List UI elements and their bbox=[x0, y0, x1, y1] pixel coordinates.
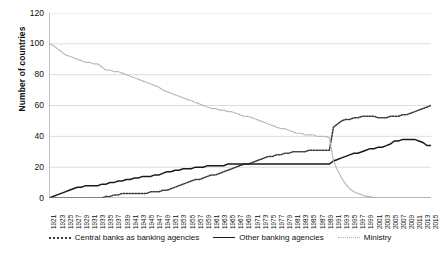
x-tick-label: 2005 bbox=[393, 215, 399, 229]
y-tick-label: 100 bbox=[18, 39, 44, 48]
x-tick-label: 1965 bbox=[230, 215, 236, 229]
x-tick-label: 1943 bbox=[141, 215, 147, 229]
x-tick-label: 1975 bbox=[271, 215, 277, 229]
x-tick-label: 2011 bbox=[417, 215, 423, 229]
x-tick-label: 1961 bbox=[214, 215, 220, 229]
x-tick-label: 1921 bbox=[51, 215, 57, 229]
x-axis-tick-labels: 1921192319251927192919311933193519371939… bbox=[49, 199, 431, 231]
x-tick-label: 1929 bbox=[84, 215, 90, 229]
gridlines bbox=[49, 13, 431, 167]
x-tick-label: 1989 bbox=[328, 215, 334, 229]
x-tick-label: 1985 bbox=[311, 215, 317, 229]
x-tick-label: 1971 bbox=[255, 215, 261, 229]
legend-item[interactable]: Ministry bbox=[338, 233, 392, 242]
series-line-2 bbox=[49, 44, 431, 198]
x-tick-label: 1959 bbox=[206, 215, 212, 229]
chart-container: Number of countries 020406080100120 1921… bbox=[0, 0, 440, 253]
x-tick-label: 1999 bbox=[368, 215, 374, 229]
x-tick-label: 1927 bbox=[76, 215, 82, 229]
x-tick-label: 1941 bbox=[133, 215, 139, 229]
x-tick-label: 1997 bbox=[360, 215, 366, 229]
legend-item[interactable]: Other banking agencies bbox=[213, 233, 324, 242]
legend-label: Other banking agencies bbox=[239, 233, 324, 242]
x-tick-label: 2003 bbox=[385, 215, 391, 229]
x-tick-label: 1951 bbox=[173, 215, 179, 229]
x-tick-label: 1949 bbox=[165, 215, 171, 229]
x-tick-label: 1983 bbox=[303, 215, 309, 229]
x-tick-label: 1995 bbox=[352, 215, 358, 229]
x-tick-label: 1979 bbox=[287, 215, 293, 229]
x-tick-label: 1963 bbox=[222, 215, 228, 229]
y-axis-tick-labels: 020406080100120 bbox=[14, 0, 44, 253]
chart-legend: Central banks as banking agenciesOther b… bbox=[0, 233, 440, 242]
x-tick-label: 1933 bbox=[100, 215, 106, 229]
x-tick-label: 1935 bbox=[108, 215, 114, 229]
x-tick-label: 2013 bbox=[425, 215, 431, 229]
y-tick-label: 20 bbox=[18, 163, 44, 172]
x-tick-label: 1969 bbox=[246, 215, 252, 229]
x-tick-label: 1973 bbox=[263, 215, 269, 229]
y-tick-label: 0 bbox=[18, 194, 44, 203]
light-dotted-line-icon bbox=[338, 237, 360, 238]
x-tick-label: 1953 bbox=[181, 215, 187, 229]
x-tick-label: 1955 bbox=[190, 215, 196, 229]
x-tick-label: 1939 bbox=[125, 215, 131, 229]
x-tick-label: 1957 bbox=[198, 215, 204, 229]
x-tick-label: 1967 bbox=[238, 215, 244, 229]
x-tick-label: 1947 bbox=[157, 215, 163, 229]
x-tick-label: 2007 bbox=[401, 215, 407, 229]
legend-label: Central banks as banking agencies bbox=[75, 233, 200, 242]
dotted-line-icon bbox=[49, 237, 71, 239]
series-line-1 bbox=[49, 139, 431, 198]
x-tick-label: 2015 bbox=[433, 215, 439, 229]
legend-item[interactable]: Central banks as banking agencies bbox=[49, 233, 200, 242]
x-tick-label: 1981 bbox=[295, 215, 301, 229]
x-tick-label: 1993 bbox=[344, 215, 350, 229]
y-tick-label: 120 bbox=[18, 9, 44, 18]
plot-area bbox=[49, 13, 431, 198]
solid-line-icon bbox=[213, 237, 235, 239]
x-tick-label: 1925 bbox=[68, 215, 74, 229]
y-tick-label: 60 bbox=[18, 101, 44, 110]
x-tick-label: 2001 bbox=[377, 215, 383, 229]
data-series-group bbox=[49, 44, 431, 198]
x-tick-label: 1987 bbox=[320, 215, 326, 229]
x-tick-label: 1991 bbox=[336, 215, 342, 229]
x-tick-label: 1977 bbox=[279, 215, 285, 229]
y-tick-label: 80 bbox=[18, 70, 44, 79]
x-tick-label: 1931 bbox=[92, 215, 98, 229]
y-tick-label: 40 bbox=[18, 132, 44, 141]
legend-label: Ministry bbox=[364, 233, 392, 242]
x-tick-label: 2009 bbox=[409, 215, 415, 229]
x-tick-label: 1923 bbox=[60, 215, 66, 229]
plot-svg bbox=[49, 13, 431, 198]
x-tick-label: 1937 bbox=[116, 215, 122, 229]
x-tick-label: 1945 bbox=[149, 215, 155, 229]
